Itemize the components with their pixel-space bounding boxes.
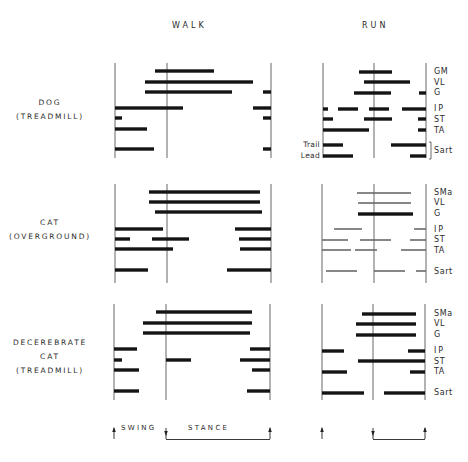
emg-burst-bar — [334, 228, 362, 230]
emg-burst-bar — [240, 358, 270, 361]
up-arrow-icon — [423, 427, 427, 432]
emg-burst-bar — [323, 143, 343, 146]
emg-burst-bar — [115, 237, 130, 240]
down-arrow-icon — [371, 431, 375, 436]
emg-burst-bar — [374, 270, 405, 272]
up-arrow-icon — [268, 427, 272, 432]
emg-burst-bar — [152, 237, 189, 240]
panel-run — [322, 184, 426, 283]
emg-burst-bar — [250, 347, 270, 350]
emg-burst-bar — [155, 69, 214, 72]
emg-burst-bar — [384, 391, 425, 394]
emg-burst-bar — [322, 370, 347, 373]
emg-burst-bar — [145, 80, 253, 83]
emg-burst-bar — [115, 147, 154, 150]
emg-burst-bar — [114, 389, 139, 392]
emg-burst-bar — [166, 358, 191, 361]
emg-burst-bar — [252, 368, 270, 371]
emg-burst-bar — [115, 116, 122, 119]
emg-burst-bar — [356, 333, 416, 336]
emg-burst-bar — [414, 228, 426, 230]
emg-burst-bar — [145, 90, 232, 93]
emg-burst-bar — [356, 322, 416, 325]
emg-burst-bar — [114, 368, 139, 371]
up-arrow-icon — [112, 427, 116, 432]
emg-burst-bar — [410, 239, 426, 241]
emg-burst-bar — [156, 310, 252, 313]
emg-burst-bar — [419, 91, 426, 94]
emg-burst-bar — [359, 70, 392, 73]
emg-burst-bar — [115, 268, 148, 271]
panel-run — [322, 304, 425, 400]
emg-burst-bar — [338, 107, 358, 110]
emg-burst-bar — [418, 117, 426, 120]
emg-burst-bar — [322, 349, 344, 352]
panel-run — [323, 63, 426, 158]
emg-burst-bar — [358, 202, 411, 204]
emg-burst-bar — [323, 117, 333, 120]
emg-burst-bar — [143, 331, 250, 334]
emg-burst-bar — [410, 154, 426, 157]
emg-burst-bar — [155, 210, 262, 213]
emg-burst-bar — [358, 359, 425, 362]
emg-burst-bar — [322, 239, 348, 241]
emg-burst-bar — [418, 128, 426, 131]
emg-burst-bar — [239, 237, 271, 240]
emg-burst-bar — [323, 154, 353, 157]
emg-burst-bar — [115, 127, 147, 130]
emg-timing-chart — [0, 0, 468, 462]
emg-burst-bar — [114, 347, 137, 350]
emg-burst-bar — [263, 147, 271, 150]
emg-burst-bar — [143, 321, 252, 324]
emg-burst-bar — [323, 128, 369, 131]
emg-burst-bar — [364, 80, 410, 83]
emg-burst-bar — [357, 192, 411, 194]
emg-burst-bar — [115, 106, 183, 109]
down-arrow-icon — [164, 431, 168, 436]
emg-burst-bar — [401, 249, 426, 251]
emg-burst-bar — [115, 227, 163, 230]
emg-burst-bar — [240, 247, 271, 250]
phase-legend-markers — [112, 427, 427, 440]
panel-walk — [115, 63, 271, 158]
emg-burst-bar — [416, 270, 426, 272]
panel-walk — [115, 184, 271, 283]
sart-bracket-icon — [429, 142, 431, 159]
chart-panels — [114, 63, 426, 400]
emg-burst-bar — [360, 239, 391, 241]
emg-burst-bar — [253, 106, 271, 109]
emg-burst-bar — [408, 349, 425, 352]
emg-burst-bar — [364, 117, 392, 120]
emg-burst-bar — [358, 212, 413, 215]
emg-burst-bar — [263, 90, 271, 93]
emg-burst-bar — [323, 107, 328, 110]
emg-burst-bar — [362, 312, 416, 315]
emg-burst-bar — [114, 358, 122, 361]
emg-burst-bar — [391, 143, 426, 146]
emg-burst-bar — [326, 270, 357, 272]
emg-burst-bar — [247, 389, 270, 392]
panel-walk — [114, 304, 270, 400]
emg-burst-bar — [369, 107, 389, 110]
emg-burst-bar — [263, 116, 271, 119]
emg-burst-bar — [402, 107, 426, 110]
emg-burst-bar — [355, 249, 377, 251]
emg-burst-bar — [115, 247, 173, 250]
emg-burst-bar — [354, 91, 391, 94]
emg-burst-bar — [322, 391, 364, 394]
emg-burst-bar — [227, 268, 271, 271]
emg-burst-bar — [235, 227, 271, 230]
emg-burst-bar — [149, 200, 260, 203]
emg-burst-bar — [410, 370, 425, 373]
emg-burst-bar — [322, 249, 351, 251]
emg-burst-bar — [149, 190, 260, 193]
up-arrow-icon — [320, 427, 324, 432]
